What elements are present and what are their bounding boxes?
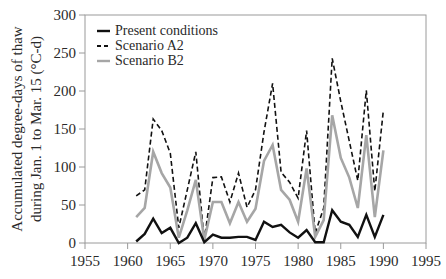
legend-label-a2: Scenario A2 [115,38,184,53]
x-tick-label: 1955 [70,253,100,269]
legend: Present conditions Scenario A2 Scenario … [97,23,218,68]
x-tick-label: 1970 [198,253,228,269]
y-axis-label-line2: during Jan. 1 to Mar. 15 (°C-d) [28,36,45,222]
y-axis-label: Accumulated degree-days of thaw during J… [9,26,45,231]
legend-label-present: Present conditions [115,23,218,38]
y-tick-label: 100 [54,159,77,175]
y-axis: 050100150200250300 [54,7,86,251]
x-axis: 195519601965197019751980198519901995 [70,243,441,269]
y-tick-label: 250 [54,45,77,61]
x-tick-label: 1985 [326,253,356,269]
series-line-present-conditions [136,210,383,243]
line-chart: 050100150200250300 195519601965197019751… [0,0,446,279]
x-tick-label: 1960 [113,253,143,269]
y-tick-label: 200 [54,83,77,99]
y-axis-label-line1: Accumulated degree-days of thaw [9,26,25,231]
legend-label-b2: Scenario B2 [115,53,184,68]
y-tick-label: 300 [54,7,77,23]
x-tick-label: 1965 [155,253,185,269]
x-tick-label: 1990 [368,253,398,269]
y-tick-label: 150 [54,121,77,137]
series-group [136,58,383,243]
y-tick-label: 0 [69,235,77,251]
y-tick-label: 50 [61,197,76,213]
x-tick-label: 1980 [283,253,313,269]
x-tick-label: 1975 [241,253,271,269]
x-tick-label: 1995 [411,253,441,269]
